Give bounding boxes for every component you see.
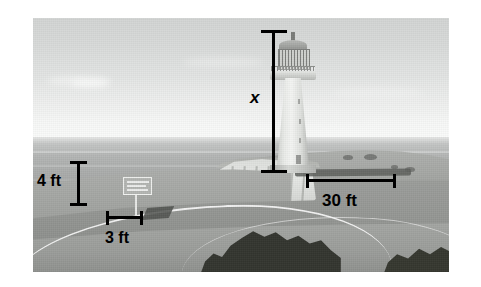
sign-text-line	[127, 189, 148, 191]
scene-photo	[33, 18, 449, 272]
x-measure-label: x	[250, 89, 259, 106]
sign-text-line	[127, 181, 149, 183]
sign-height-line	[77, 161, 80, 206]
lighthouse-window	[299, 119, 301, 124]
x-measure-line	[272, 30, 275, 173]
cloud	[333, 88, 423, 100]
lighthouse-window	[299, 138, 301, 143]
lighthouse-window	[298, 99, 300, 104]
lighthouse-shadow-line	[306, 179, 396, 182]
lighthouse-measurement-figure: x 4 ft 3 ft 30 ft	[0, 0, 481, 287]
cloud	[71, 80, 109, 87]
sign-post	[135, 195, 137, 218]
sign-shadow-label: 3 ft	[105, 230, 129, 246]
bush	[343, 155, 353, 160]
sign-height-bottom-cap	[70, 203, 87, 206]
bush	[364, 154, 377, 160]
lighthouse-shadow-label: 30 ft	[322, 192, 357, 209]
x-measure-bottom-cap	[261, 170, 287, 173]
lighthouse-door	[296, 155, 301, 164]
sign-shadow-line	[106, 216, 143, 219]
lighthouse-shadow-right-cap	[393, 174, 396, 188]
cloud	[183, 58, 263, 67]
lighthouse-tower	[274, 78, 313, 172]
roadside-sign	[123, 177, 152, 195]
sign-text-line	[127, 185, 146, 187]
sign-shadow-right-cap	[140, 211, 143, 225]
sign-height-label: 4 ft	[37, 173, 61, 189]
